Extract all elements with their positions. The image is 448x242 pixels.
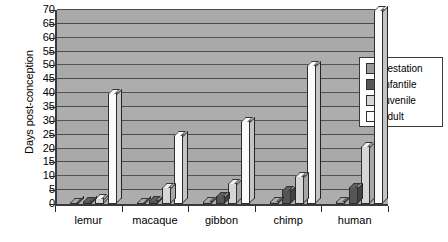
y-axis-tick-mark (49, 10, 55, 11)
y-axis-tick-label: 20 (15, 142, 55, 154)
bar-human-adult (374, 10, 383, 204)
bar-side-face (304, 172, 309, 203)
bar-chart: Days post-conception 0510152025303540455… (0, 0, 448, 242)
y-axis-tick-mark (49, 38, 55, 39)
x-axis-tick-mark (255, 206, 256, 212)
y-axis-tick-mark (49, 93, 55, 94)
y-axis-tick-mark (49, 65, 55, 66)
y-axis-tick-mark (49, 149, 55, 150)
y-axis-tick-label: 65 (15, 17, 55, 29)
y-axis-tick-label: 70 (15, 3, 55, 15)
y-axis-tick-label: 15 (15, 155, 55, 167)
bar-lemur-juvenile (95, 198, 104, 204)
bar-human-gestation (336, 201, 345, 204)
bar-side-face (183, 131, 188, 203)
bar-side-face (316, 61, 321, 203)
bar-lemur-gestation (70, 202, 79, 204)
bar-group-gibbon (190, 10, 257, 204)
y-axis-tick-mark (49, 52, 55, 53)
chart-legend: gestationinfantilejuvenileadult (359, 57, 443, 127)
y-axis-tick-label: 60 (15, 31, 55, 43)
bar-lemur-adult (108, 93, 117, 204)
y-axis-tick-mark (49, 162, 55, 163)
bar-macaque-infantile (149, 200, 158, 204)
y-axis-tick-label: 40 (15, 86, 55, 98)
bar-human-infantile (349, 187, 358, 204)
plot-area (55, 10, 388, 206)
y-axis-tick-mark (49, 107, 55, 108)
y-axis-tick-label: 30 (15, 114, 55, 126)
y-axis-tick-mark (49, 24, 55, 25)
bar-chimp-gestation (270, 201, 279, 204)
x-axis-label-lemur: lemur (75, 214, 103, 226)
y-axis-tick-label: 0 (15, 197, 55, 209)
y-axis-tick-label: 25 (15, 128, 55, 140)
y-axis-tick-mark (49, 176, 55, 177)
y-axis-tick-label: 10 (15, 169, 55, 181)
y-axis-tick-label: 55 (15, 45, 55, 57)
x-axis-tick-mark (122, 206, 123, 212)
y-axis-tick-label: 45 (15, 72, 55, 84)
y-axis-tick-mark (49, 121, 55, 122)
bar-group-human (323, 10, 390, 204)
legend-label: gestation (382, 63, 423, 74)
bar-macaque-gestation (137, 202, 146, 204)
x-axis-tick-mark (321, 206, 322, 212)
y-axis-tick-label: 50 (15, 58, 55, 70)
bar-gibbon-infantile (216, 196, 225, 204)
y-axis-tick-mark (49, 190, 55, 191)
x-axis-label-human: human (338, 214, 372, 226)
x-axis-tick-mark (55, 206, 56, 212)
x-axis-tick-mark (188, 206, 189, 212)
bar-side-face (383, 6, 388, 203)
bar-group-macaque (124, 10, 191, 204)
bar-side-face (370, 142, 375, 203)
bar-chimp-juvenile (295, 176, 304, 204)
bar-gibbon-gestation (203, 201, 212, 204)
x-axis-label-chimp: chimp (273, 214, 302, 226)
x-axis-label-gibbon: gibbon (205, 214, 238, 226)
y-axis-tick-label: 5 (15, 183, 55, 195)
x-axis-label-macaque: macaque (132, 214, 177, 226)
bar-group-lemur (57, 10, 124, 204)
x-axis-tick-mark (388, 206, 389, 212)
bar-side-face (250, 117, 255, 203)
y-axis-tick-mark (49, 204, 55, 205)
y-axis-tick-mark (49, 135, 55, 136)
y-axis-tick-mark (49, 79, 55, 80)
bar-side-face (117, 89, 122, 203)
bar-gibbon-adult (241, 121, 250, 204)
bar-lemur-infantile (83, 201, 92, 204)
bar-group-chimp (257, 10, 324, 204)
y-axis-tick-label: 35 (15, 100, 55, 112)
